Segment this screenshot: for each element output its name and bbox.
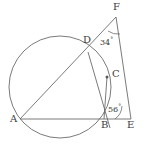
angle-value-E: 56 (108, 105, 118, 114)
geometry-figure: A B C D E F 34° 56° (0, 0, 153, 145)
point-label-C: C (112, 69, 120, 79)
point-label-B: B (101, 120, 108, 130)
angle-value-F: 34 (100, 38, 110, 47)
point-label-D: D (83, 35, 91, 45)
point-label-F: F (113, 2, 120, 12)
point-label-A: A (10, 114, 17, 124)
degree-symbol-F: ° (110, 35, 113, 42)
circle-outline (9, 36, 111, 138)
angle-label-E: 56° (108, 103, 121, 114)
degree-symbol-E: ° (118, 102, 121, 109)
point-C (106, 76, 109, 79)
segment-AF (20, 17, 116, 119)
segment-DE (88, 52, 110, 128)
point-label-E: E (127, 120, 134, 130)
angle-label-F: 34° (100, 36, 113, 47)
